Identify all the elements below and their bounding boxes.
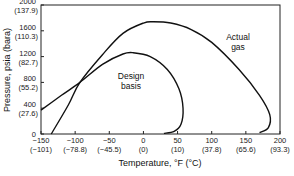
y-tick-label-bara: (82.7) <box>18 58 38 67</box>
series-design-basis <box>41 52 183 133</box>
x-tick-label-c: (0) <box>139 145 149 154</box>
annotation-design-2: basis <box>121 81 141 91</box>
x-tick-label: 0 <box>141 136 145 145</box>
y-axis: 0400(27.6)800(55.2)1200(82.7)1600(110.3)… <box>14 0 44 139</box>
annotation-actual-2: gas <box>231 42 245 52</box>
x-tick-label: 50 <box>173 136 181 145</box>
annotation-design: Design <box>118 71 145 81</box>
y-tick-label: 800 <box>23 74 36 83</box>
y-axis-label: Pressure, psia (bara) <box>2 28 12 112</box>
x-tick-label: 200 <box>274 136 287 145</box>
plot-frame <box>41 5 280 134</box>
chart: 0400(27.6)800(55.2)1200(82.7)1600(110.3)… <box>0 0 294 176</box>
y-tick-label: 400 <box>23 100 36 109</box>
annotation-actual: Actual <box>226 32 250 42</box>
x-tick-label-c: (65.6) <box>236 145 256 154</box>
x-tick-label-c: (93.3) <box>270 145 290 154</box>
x-tick-label-c: (−45.5) <box>97 145 121 154</box>
x-tick-label-c: (−78.8) <box>63 145 87 154</box>
x-tick-label: 100 <box>205 136 218 145</box>
y-tick-label: 1200 <box>19 49 36 58</box>
y-tick-label-bara: (55.2) <box>18 83 38 92</box>
x-tick-label: −50 <box>103 136 116 145</box>
x-tick-label: −100 <box>67 136 84 145</box>
x-tick-label-c: (10) <box>171 145 185 154</box>
x-tick-label: −150 <box>33 136 50 145</box>
y-tick-label-bara: (137.9) <box>14 6 38 15</box>
x-tick-label: 150 <box>240 136 253 145</box>
y-tick-label-bara: (110.3) <box>15 32 39 41</box>
y-tick-label: 1600 <box>19 23 36 32</box>
y-tick-label-bara: (27.6) <box>18 109 38 118</box>
x-axis-label: Temperature, °F (°C) <box>118 158 201 168</box>
x-tick-label-c: (−101) <box>30 145 52 154</box>
x-tick-label-c: (37.8) <box>202 145 222 154</box>
